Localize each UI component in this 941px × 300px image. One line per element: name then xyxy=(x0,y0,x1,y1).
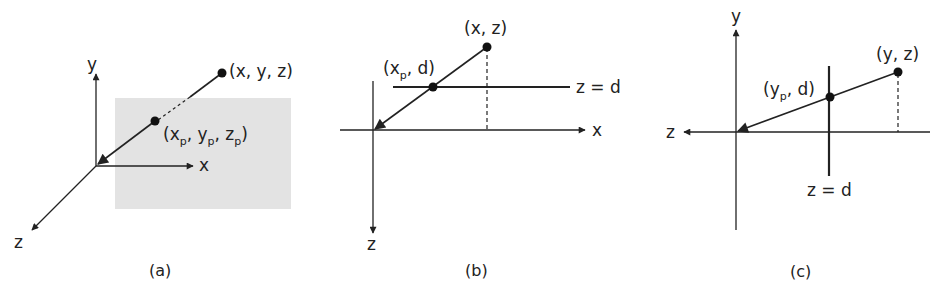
projection-plane xyxy=(115,98,291,209)
point-label: (x, y, z) xyxy=(229,61,293,81)
point xyxy=(483,43,492,52)
plane-label: z = d xyxy=(576,77,621,97)
projected-point-label: (yp, d) xyxy=(763,79,815,103)
point-label: (y, z) xyxy=(876,44,919,64)
z-axis-label: z xyxy=(666,122,675,142)
panel-a: y x z (x, y, z) (xp, yp, zp) (a) xyxy=(14,54,293,280)
z-axis-label: z xyxy=(367,234,376,254)
x-axis-label: x xyxy=(199,155,209,175)
projector-solid xyxy=(190,73,222,97)
projected-point-label: (xp, d) xyxy=(383,58,435,82)
caption-c: (c) xyxy=(790,262,811,281)
panel-b: x z (x, z) (xp, d) z = d (b) xyxy=(340,18,621,280)
projection-figure: y x z (x, y, z) (xp, yp, zp) (a) x z (x,… xyxy=(0,0,941,300)
projector xyxy=(738,72,898,131)
point xyxy=(894,68,903,77)
z-axis-label: z xyxy=(14,232,23,252)
x-axis-label: x xyxy=(592,120,602,140)
projected-point xyxy=(826,93,835,102)
caption-a: (a) xyxy=(149,261,171,280)
point xyxy=(218,69,227,78)
plane-label: z = d xyxy=(807,180,852,200)
caption-b: (b) xyxy=(465,261,488,280)
projected-point xyxy=(151,117,160,126)
y-axis-label: y xyxy=(87,54,97,74)
z-axis xyxy=(32,166,96,230)
y-axis-label: y xyxy=(731,6,741,26)
point-label: (x, z) xyxy=(464,18,507,38)
projected-point xyxy=(429,83,438,92)
panel-c: y z (y, z) (yp, d) z = d (c) xyxy=(666,6,930,281)
